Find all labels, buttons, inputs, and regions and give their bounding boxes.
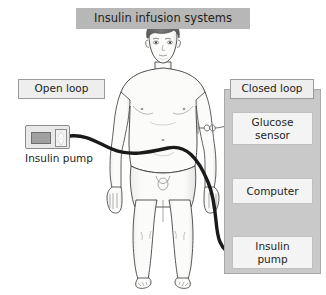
insulin-pump-line2: pump [257, 253, 287, 265]
pump-screen-icon [31, 132, 51, 144]
insulin-pump-device[interactable] [25, 125, 70, 149]
closed-loop-heading: Closed loop [230, 79, 314, 99]
insulin-pump-line1: Insulin [255, 240, 289, 252]
closed-loop-box-computer: Computer [232, 178, 313, 204]
down-arrow-icon[interactable] [58, 140, 64, 145]
up-arrow-icon[interactable] [58, 132, 64, 137]
computer-label: Computer [246, 185, 298, 197]
glucose-sensor-line1: Glucose [252, 116, 294, 128]
glucose-sensor-line2: sensor [255, 129, 290, 141]
diagram-title: Insulin infusion systems [76, 8, 250, 29]
insulin-pump-device-label: Insulin pump [14, 152, 104, 164]
insulin-infusion-systems-diagram: Insulin infusion systems Open loop Insul… [0, 0, 326, 295]
closed-loop-box-insulin-pump: Insulin pump [232, 236, 313, 269]
pump-arrow-buttons[interactable] [55, 129, 67, 147]
open-loop-heading: Open loop [18, 79, 105, 99]
closed-loop-box-glucose-sensor: Glucose sensor [232, 112, 313, 145]
